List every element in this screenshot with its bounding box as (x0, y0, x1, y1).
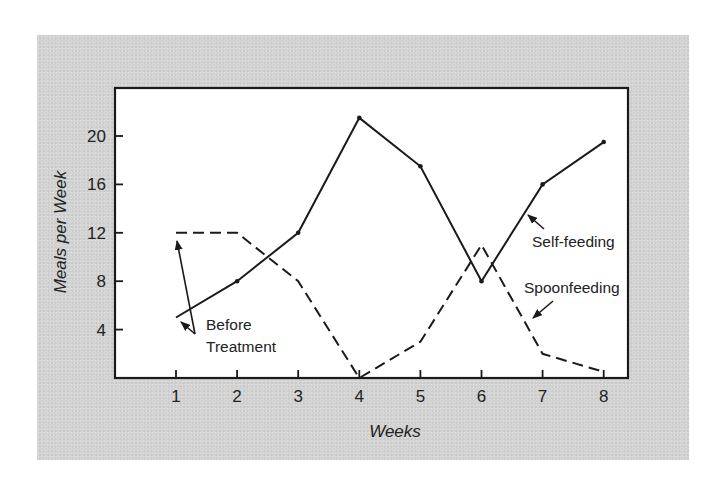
y-tick-label: 8 (97, 272, 106, 291)
before-label: Before (206, 316, 252, 333)
data-point (479, 279, 484, 284)
x-tick-label: 7 (538, 387, 547, 406)
y-tick-label: 12 (87, 224, 106, 243)
x-tick-label: 3 (293, 387, 302, 406)
y-axis-title: Meals per Week (51, 169, 70, 293)
treatment-label: Treatment (206, 338, 277, 355)
data-point (357, 116, 362, 121)
x-tick-label: 5 (416, 387, 425, 406)
x-tick-label: 1 (171, 387, 180, 406)
self-feeding-label: Self-feeding (532, 233, 615, 250)
x-tick-label: 2 (232, 387, 241, 406)
x-tick-label: 6 (477, 387, 486, 406)
data-point (296, 231, 301, 236)
data-point (601, 140, 606, 145)
line-chart: 48121620 12345678 Weeks Meals per Week S… (0, 0, 723, 484)
x-axis-title: Weeks (369, 422, 421, 441)
data-point (418, 164, 423, 169)
data-point (235, 279, 240, 284)
y-tick-label: 16 (87, 175, 106, 194)
spoonfeeding-label: Spoonfeeding (524, 279, 620, 296)
data-point (540, 182, 545, 187)
x-tick-label: 4 (355, 387, 364, 406)
x-tick-label: 8 (599, 387, 608, 406)
y-tick-label: 20 (87, 127, 106, 146)
y-tick-label: 4 (97, 321, 106, 340)
